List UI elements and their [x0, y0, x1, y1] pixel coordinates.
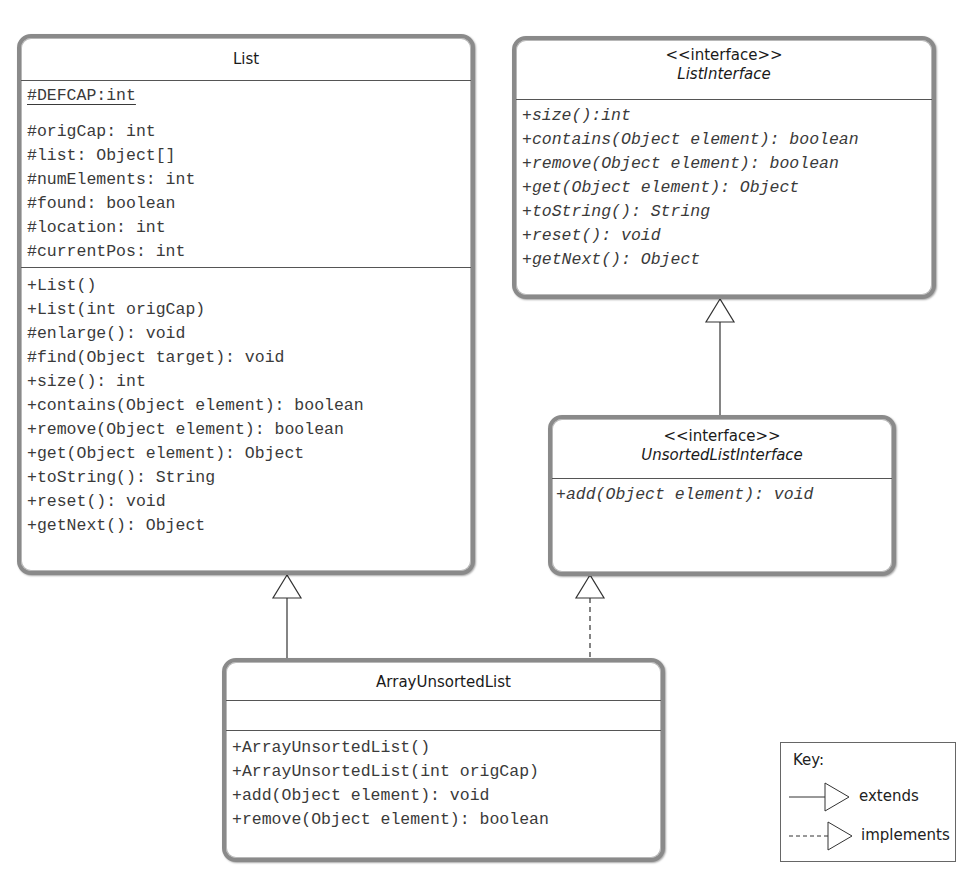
methods: +size():int +contains(Object element): b… [522, 104, 926, 272]
class-array-unsorted-list: ArrayUnsortedList +ArrayUnsortedList() +… [222, 658, 665, 862]
legend-key: Key: extends implements [780, 742, 956, 862]
extends-arrow-icon [789, 783, 849, 811]
title-divider [552, 478, 892, 479]
method: +reset(): void [27, 490, 465, 514]
method: +getNext(): Object [27, 514, 465, 538]
interface-list-interface: <<interface>> ListInterface +size():int … [512, 36, 936, 299]
title-divider [516, 99, 932, 100]
attribute: #numElements: int [27, 168, 465, 192]
title-divider [21, 80, 471, 81]
interface-unsorted-list-interface: <<interface>> UnsortedListInterface +add… [548, 415, 896, 576]
method: +remove(Object element): boolean [27, 418, 465, 442]
method: +toString(): String [522, 200, 926, 224]
method: +contains(Object element): boolean [27, 394, 465, 418]
interface-name: UnsortedListInterface [552, 446, 892, 465]
class-name-list: List [21, 50, 471, 69]
method: +List() [27, 274, 465, 298]
method: +ArrayUnsortedList() [232, 736, 655, 760]
method: +add(Object element): void [232, 784, 655, 808]
methods: +ArrayUnsortedList() +ArrayUnsortedList(… [232, 736, 655, 832]
stereotype: <<interface>> [552, 427, 892, 446]
method: +ArrayUnsortedList(int origCap) [232, 760, 655, 784]
attributes-divider [226, 730, 661, 731]
attribute: #found: boolean [27, 192, 465, 216]
attributes: #origCap: int #list: Object[] #numElemen… [27, 120, 465, 264]
class-name-array-unsorted-list: ArrayUnsortedList [226, 673, 661, 692]
method: +get(Object element): Object [522, 176, 926, 200]
extends-arrow-list-interface [706, 299, 734, 415]
attribute: #currentPos: int [27, 240, 465, 264]
method: +remove(Object element): boolean [232, 808, 655, 832]
method: +size(): int [27, 370, 465, 394]
methods: +add(Object element): void [556, 483, 886, 507]
attribute: #list: Object[] [27, 144, 465, 168]
extends-arrow-list [273, 575, 301, 658]
method: #enlarge(): void [27, 322, 465, 346]
method: +reset(): void [522, 224, 926, 248]
method: +toString(): String [27, 466, 465, 490]
legend-implements-label: implements [861, 826, 950, 844]
method: +List(int origCap) [27, 298, 465, 322]
interface-name: ListInterface [516, 65, 932, 84]
stereotype: <<interface>> [516, 46, 932, 65]
method: +get(Object element): Object [27, 442, 465, 466]
legend-extends-label: extends [859, 787, 919, 805]
method: +getNext(): Object [522, 248, 926, 272]
interface-header: <<interface>> UnsortedListInterface [552, 427, 892, 465]
methods: +List() +List(int origCap) #enlarge(): v… [27, 274, 465, 538]
attributes-divider [21, 267, 471, 268]
attribute: #location: int [27, 216, 465, 240]
interface-header: <<interface>> ListInterface [516, 46, 932, 84]
class-list: List #DEFCAP:int #origCap: int #list: Ob… [17, 34, 475, 575]
title-divider [226, 700, 661, 701]
method: +size():int [522, 104, 926, 128]
implements-arrow-icon [789, 822, 852, 850]
method: #find(Object target): void [27, 346, 465, 370]
static-attribute: #DEFCAP:int [27, 84, 465, 108]
method: +remove(Object element): boolean [522, 152, 926, 176]
implements-arrow-unsorted-list-interface [576, 575, 604, 658]
method: +add(Object element): void [556, 483, 886, 507]
method: +contains(Object element): boolean [522, 128, 926, 152]
static-attributes: #DEFCAP:int [27, 84, 465, 108]
attribute: #origCap: int [27, 120, 465, 144]
